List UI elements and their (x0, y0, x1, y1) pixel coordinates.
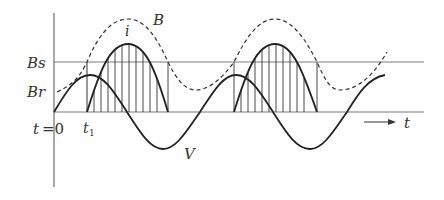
time-axis-label: t (404, 114, 411, 132)
t1-label-sub: 1 (89, 128, 95, 138)
magnetic-saturation-diagram: Bs Br t =0 t 1 B i V t (0, 0, 444, 200)
t0-label-eq: =0 (42, 120, 64, 138)
i-curve-label: i (125, 23, 129, 39)
b-curve-label: B (152, 11, 164, 29)
time-arrow-head-icon (388, 119, 396, 125)
v-curve-label: V (184, 145, 197, 163)
bs-label: Bs (26, 54, 46, 72)
br-label: Br (26, 83, 46, 101)
t0-label-t: t (33, 120, 40, 138)
